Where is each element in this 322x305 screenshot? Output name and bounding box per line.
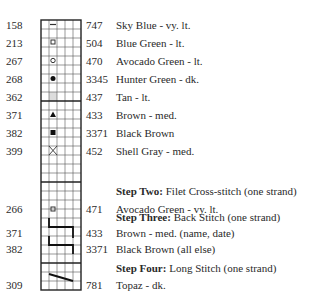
open-circle-icon (51, 58, 55, 62)
step-four-heading: Step Four: Long Stitch (one strand) (116, 262, 276, 274)
left-code: 399 (6, 145, 36, 157)
left-code: 267 (6, 55, 36, 67)
dmc-code: 452 (86, 145, 103, 157)
dmc-code: 433 (86, 109, 103, 121)
dmc-code: 437 (86, 91, 103, 103)
left-code: 371 (6, 109, 36, 121)
dmc-code: 3371 (86, 243, 108, 255)
step-two-heading: Step Two: Filet Cross-stitch (one strand… (116, 185, 297, 197)
color-name: Avocado Green - lt. (116, 55, 203, 67)
dmc-code: 470 (86, 55, 103, 67)
left-code: 266 (6, 203, 36, 215)
dmc-code: 504 (86, 37, 103, 49)
left-code: 382 (6, 243, 36, 255)
gray-shade-icon (49, 92, 57, 101)
long-stitch-line-icon (49, 274, 73, 281)
dmc-code: 433 (86, 227, 103, 239)
color-name: Sky Blue - vy. lt. (116, 19, 190, 31)
filled-triangle-icon (50, 112, 56, 118)
dmc-code: 3345 (86, 73, 108, 85)
left-code: 362 (6, 91, 36, 103)
color-name: Black Brown (116, 127, 174, 139)
color-name: Tan - lt. (116, 91, 150, 103)
color-name: Hunter Green - dk. (116, 73, 199, 85)
color-name: Black Brown (all else) (116, 243, 215, 255)
color-name: Brown - med. (116, 109, 177, 121)
color-name: Topaz - dk. (116, 279, 166, 291)
left-code: 158 (6, 19, 36, 31)
backstitch-line-icon (49, 218, 73, 238)
filled-circle-icon (51, 76, 56, 81)
left-code: 382 (6, 127, 36, 139)
dmc-code: 471 (86, 203, 103, 215)
dmc-code: 781 (86, 279, 103, 291)
open-square-icon (51, 40, 55, 44)
step-three-heading: Step Three: Back Stitch (one strand) (116, 211, 280, 223)
color-name: Brown - med. (name, date) (116, 227, 235, 239)
left-code: 213 (6, 37, 36, 49)
color-name: Shell Gray - med. (116, 145, 194, 157)
dmc-code: 747 (86, 19, 103, 31)
left-code: 371 (6, 227, 36, 239)
color-name: Blue Green - lt. (116, 37, 184, 49)
left-code: 309 (6, 279, 36, 291)
x-cross-icon (49, 146, 57, 155)
dmc-code: 3371 (86, 127, 108, 139)
filled-square-icon (51, 130, 56, 135)
left-code: 268 (6, 73, 36, 85)
backstitch-line-icon (49, 236, 73, 254)
